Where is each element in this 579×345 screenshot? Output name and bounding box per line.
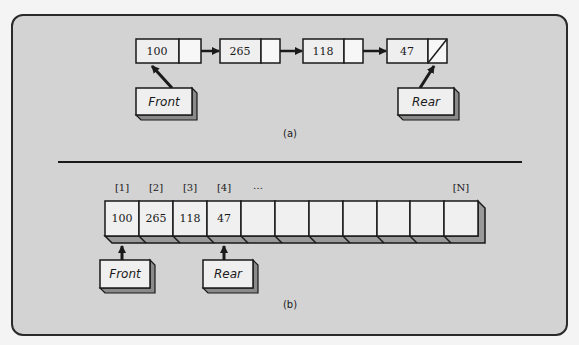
- list-node-1: 100: [136, 39, 201, 63]
- pointer-arrow-icon: [152, 66, 172, 88]
- array-index: [3]: [183, 182, 197, 193]
- array-cell-7: [309, 201, 343, 236]
- list-node-3: 118: [303, 39, 363, 63]
- cell-value: 118: [180, 212, 201, 225]
- array-index: [2]: [149, 182, 163, 193]
- pointer-arrow-icon: [420, 66, 434, 88]
- array-cell-n: [444, 201, 478, 236]
- node-value: 118: [313, 45, 334, 58]
- array-cell-8: [343, 201, 377, 236]
- list-node-2: 265: [220, 39, 280, 63]
- front-label: Front: [109, 267, 142, 281]
- array-index: [4]: [217, 182, 231, 193]
- linked-list: 100 265 118 47 Front: [136, 39, 459, 139]
- array-cell-5: [241, 201, 275, 236]
- rear-label: Rear: [412, 95, 441, 109]
- front-pointer-a: Front: [136, 66, 197, 120]
- queue-diagram: 100 265 118 47 Front: [0, 0, 579, 345]
- array-index: [N]: [453, 182, 470, 193]
- rear-pointer-a: Rear: [398, 66, 459, 120]
- cell-value: 47: [217, 212, 231, 225]
- node-value: 265: [230, 45, 251, 58]
- node-value: 100: [147, 45, 168, 58]
- cell-value: 265: [146, 212, 167, 225]
- array-cell-9: [377, 201, 410, 236]
- array-index-ellipsis: …: [253, 180, 263, 191]
- caption-a: (a): [283, 128, 297, 139]
- list-node-4: 47: [387, 39, 447, 63]
- front-label: Front: [148, 95, 181, 109]
- rear-label: Rear: [214, 267, 243, 281]
- front-pointer-b: Front: [100, 246, 155, 293]
- array-representation: [1] [2] [3] [4] … [N]: [100, 180, 485, 310]
- node-value: 47: [400, 45, 414, 58]
- rear-pointer-b: Rear: [203, 246, 258, 293]
- cell-value: 100: [112, 212, 133, 225]
- caption-b: (b): [283, 299, 297, 310]
- array-cell-10: [410, 201, 444, 236]
- array-cell-6: [275, 201, 309, 236]
- array-index: [1]: [115, 182, 129, 193]
